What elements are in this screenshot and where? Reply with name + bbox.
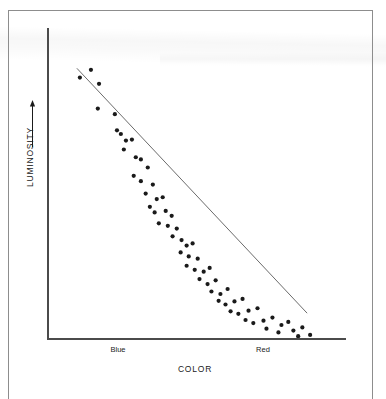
data-point [89,68,93,72]
trend-line [77,68,307,313]
data-point [179,250,183,254]
x-axis-line [47,338,346,340]
data-point [264,327,268,331]
data-point [96,107,100,111]
data-point [175,226,179,230]
data-point [232,299,236,303]
data-point [276,330,280,334]
data-point [208,266,212,270]
data-point [240,297,244,301]
data-point [209,289,213,293]
data-point [185,264,189,268]
data-point [151,182,155,186]
data-point [164,209,168,213]
data-point [218,292,222,296]
data-point [166,224,170,228]
data-point [170,214,174,218]
data-point [286,320,290,324]
data-point [132,174,136,178]
data-point [122,147,126,151]
figure-page: LUMINOSITY Blue Red COLOR [0,0,386,399]
data-point [217,299,221,303]
data-point [243,318,247,322]
data-point [78,76,82,80]
data-point [226,287,230,291]
data-point [270,315,274,319]
data-point [214,278,218,282]
y-axis-title: LUMINOSITY [25,107,35,207]
data-point [124,138,128,142]
data-point [279,323,283,327]
data-point [161,195,165,199]
data-point [228,309,232,313]
data-point [119,132,123,136]
data-point [130,138,134,142]
y-axis-label-group: LUMINOSITY [14,100,48,235]
data-point [191,241,195,245]
data-point [115,128,119,132]
data-point [139,157,143,161]
plot-area [47,28,346,338]
data-point [251,321,255,325]
data-point [153,210,157,214]
data-points-group [78,68,312,338]
data-point [223,302,227,306]
data-point [308,333,312,337]
x-tick-label-blue: Blue [99,345,137,354]
data-point [113,112,117,116]
data-point [196,257,200,261]
data-point [296,334,300,338]
data-point [148,205,152,209]
data-point [202,270,206,274]
data-point [193,268,197,272]
data-point [179,238,183,242]
data-point [134,155,138,159]
data-point [170,234,174,238]
data-point [205,282,209,286]
x-tick-label-red: Red [245,345,281,354]
data-point [300,325,304,329]
data-point [146,165,150,169]
data-point [97,82,101,86]
scatter-plot-svg [47,28,346,338]
data-point [155,197,159,201]
data-point [261,319,265,323]
data-point [197,277,201,281]
data-point [144,191,148,195]
data-point [157,221,161,225]
data-point [236,312,240,316]
data-point [185,244,189,248]
data-point [187,254,191,258]
data-point [255,306,259,310]
data-point [246,309,250,313]
data-point [139,179,143,183]
x-axis-title: COLOR [145,364,245,374]
data-point [291,328,295,332]
